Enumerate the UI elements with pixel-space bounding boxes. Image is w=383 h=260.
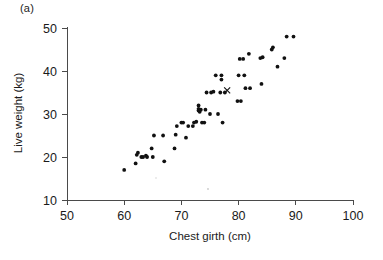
y-axis-title: Live weight (kg) [12, 73, 24, 154]
data-point [134, 162, 138, 166]
x-tick-label: 60 [117, 209, 131, 223]
data-point [173, 147, 177, 151]
y-tick-label: 50 [43, 22, 57, 36]
data-point [122, 168, 126, 172]
data-point [191, 124, 195, 128]
x-tick-label: 100 [343, 209, 364, 223]
data-point [150, 147, 154, 151]
data-point [239, 99, 243, 103]
data-point [221, 121, 225, 125]
data-point [244, 86, 248, 90]
data-point [162, 159, 166, 163]
data-point [276, 65, 280, 69]
highlight-x-marker [224, 87, 230, 93]
data-point [151, 155, 155, 159]
data-point [181, 121, 185, 125]
data-point [214, 73, 218, 77]
data-point [260, 82, 264, 86]
data-point [292, 35, 296, 39]
data-point [285, 35, 289, 39]
data-point [247, 52, 251, 56]
data-point [175, 124, 179, 128]
x-tick-label: 70 [174, 209, 188, 223]
y-tick-label: 40 [43, 65, 57, 79]
data-point [282, 56, 286, 60]
x-tick-label: 90 [289, 209, 303, 223]
x-tick-label: 80 [232, 209, 246, 223]
data-point [220, 73, 224, 77]
y-tick-label: 20 [43, 151, 57, 165]
data-point [145, 155, 149, 159]
data-point [220, 78, 224, 82]
data-point [197, 104, 201, 108]
scan-speck [207, 188, 209, 190]
data-point [199, 108, 203, 112]
data-point [202, 121, 206, 125]
x-axis-tick-labels: 5060708090100 [60, 209, 363, 223]
data-point [161, 134, 165, 138]
data-points-layer [122, 35, 295, 172]
scan-speck [155, 177, 156, 178]
data-point [248, 86, 252, 90]
data-point [204, 108, 208, 112]
data-point [205, 91, 209, 95]
data-point [237, 73, 241, 77]
y-axis-ticks [62, 28, 67, 200]
data-point [208, 112, 212, 116]
data-point [186, 124, 190, 128]
data-point [242, 73, 246, 77]
data-point [174, 133, 178, 137]
data-point [184, 136, 188, 140]
data-point [261, 55, 265, 59]
figure-panel-a: (a) 1020304050 5060708090100 Chest girth… [0, 0, 383, 260]
data-point [152, 134, 156, 138]
data-point [194, 120, 198, 124]
x-axis-title: Chest girth (cm) [169, 230, 251, 242]
data-point [218, 91, 222, 95]
y-axis-tick-labels: 1020304050 [43, 22, 57, 208]
data-point [236, 99, 240, 103]
data-point [238, 57, 242, 61]
y-tick-label: 30 [43, 108, 57, 122]
data-point [216, 112, 220, 116]
y-tick-label: 10 [43, 194, 57, 208]
x-axis-ticks [67, 200, 353, 205]
data-point [212, 90, 216, 94]
data-point [271, 45, 275, 49]
data-point [136, 151, 140, 155]
x-tick-label: 50 [60, 209, 74, 223]
scatter-plot: 1020304050 5060708090100 Chest girth (cm… [0, 0, 383, 260]
data-point [241, 57, 245, 61]
